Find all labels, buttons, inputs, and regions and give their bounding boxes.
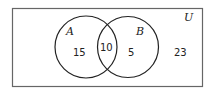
universe-label: U [184,11,194,24]
intersection-count: 10 [100,42,113,53]
set-a-only-count: 15 [73,47,86,58]
venn-diagram: U A B 15 10 5 23 [0,0,215,92]
set-b-label: B [135,25,144,38]
outside-count: 23 [174,47,187,58]
set-b-only-count: 5 [128,47,134,58]
set-a-label: A [65,25,74,38]
